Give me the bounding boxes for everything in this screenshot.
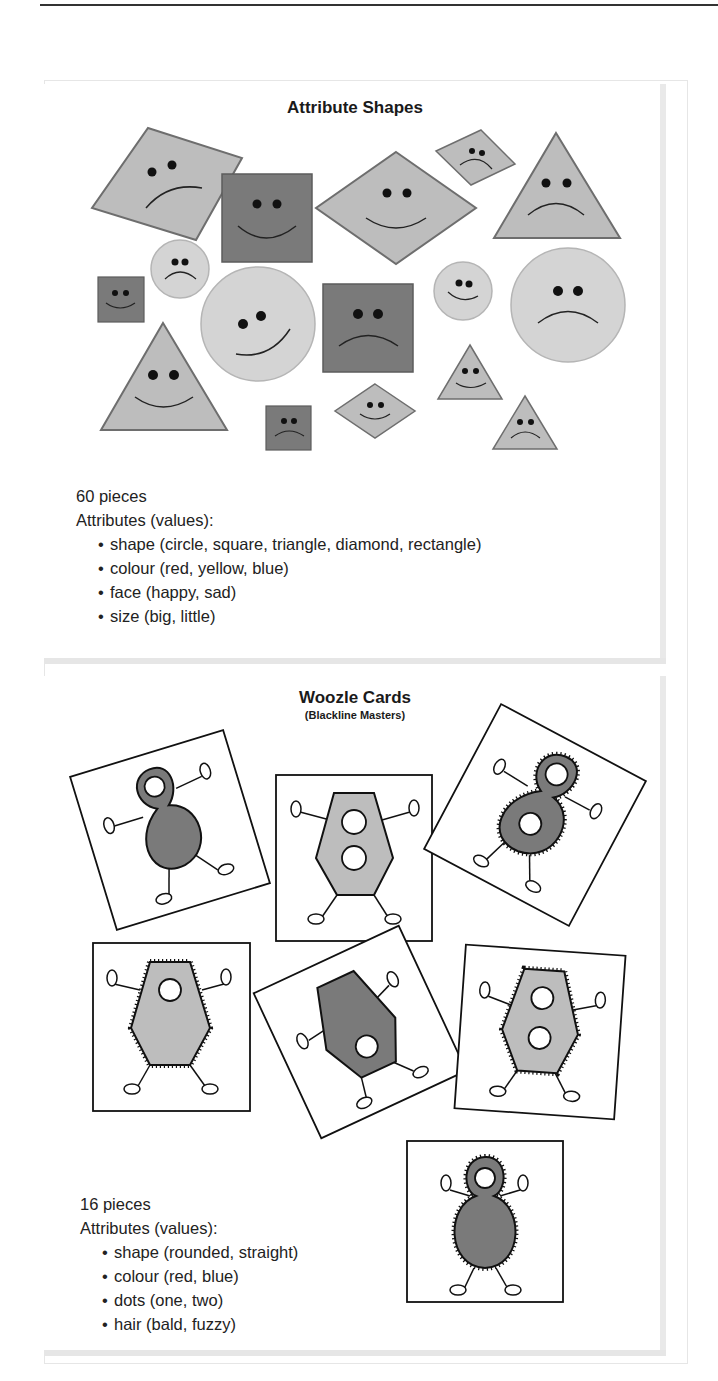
attribute-item: colour (red, blue) — [102, 1264, 298, 1288]
attribute-item: colour (red, yellow, blue) — [98, 556, 481, 580]
small-diamond-sad-icon — [436, 130, 515, 185]
piece-count: 16 pieces — [80, 1192, 298, 1216]
small-square-happy-icon — [98, 277, 144, 322]
woozle-card-rounded-one-bald — [70, 730, 270, 930]
triangle-sad-icon — [494, 133, 620, 238]
attribute-item: dots (one, two) — [102, 1288, 298, 1312]
attribute-item: shape (circle, square, triangle, diamond… — [98, 532, 481, 556]
circle-sad-icon — [511, 248, 625, 362]
woozle-card-straight-two-bald — [276, 775, 432, 941]
square-sad-icon — [323, 284, 413, 372]
panel-shadow — [44, 658, 666, 664]
woozle-cards-panel: Woozle Cards (Blackline Masters) — [44, 676, 666, 1356]
small-triangle-sad-icon — [493, 396, 557, 449]
small-circle-sad-icon — [151, 240, 209, 298]
small-diamond-happy-icon — [335, 384, 415, 438]
diamond-sad-icon — [92, 128, 242, 240]
woozle-card-straight-one-bald — [254, 926, 467, 1139]
woozle-card-straight-one-fuzzy — [93, 943, 250, 1111]
attribute-list: shape (rounded, straight) colour (red, b… — [80, 1240, 298, 1336]
piece-count: 60 pieces — [76, 484, 481, 508]
attributes-heading: Attributes (values): — [80, 1216, 298, 1240]
woozle-card-straight-two-fuzzy — [454, 945, 625, 1120]
attribute-item: face (happy, sad) — [98, 580, 481, 604]
attribute-item: size (big, little) — [98, 604, 481, 628]
attribute-shapes-panel: Attribute Shapes — [44, 84, 666, 664]
top-rule — [40, 4, 718, 6]
small-triangle-happy-icon — [438, 345, 502, 399]
attribute-shapes-illustration — [44, 84, 666, 484]
attribute-list: shape (circle, square, triangle, diamond… — [76, 532, 481, 628]
small-circle-happy-icon — [434, 262, 492, 320]
woozle-card-rounded-one-fuzzy — [407, 1141, 563, 1302]
woozle-card-rounded-two-fuzzy — [424, 704, 646, 926]
attribute-item: hair (bald, fuzzy) — [102, 1312, 298, 1336]
small-square-sad-icon — [266, 406, 311, 450]
diamond-happy-icon — [316, 152, 476, 264]
attribute-item: shape (rounded, straight) — [102, 1240, 298, 1264]
attribute-shapes-info: 60 pieces Attributes (values): shape (ci… — [76, 484, 481, 628]
attributes-heading: Attributes (values): — [76, 508, 481, 532]
square-happy-icon — [222, 174, 312, 262]
circle-happy-icon — [201, 267, 315, 381]
woozle-cards-info: 16 pieces Attributes (values): shape (ro… — [80, 1192, 298, 1336]
